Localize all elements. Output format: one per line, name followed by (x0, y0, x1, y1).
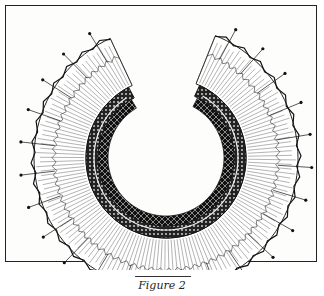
lace-collar-illustration (0, 0, 324, 270)
figure-caption: Figure 2 (0, 279, 324, 292)
caption-rule (135, 276, 191, 277)
